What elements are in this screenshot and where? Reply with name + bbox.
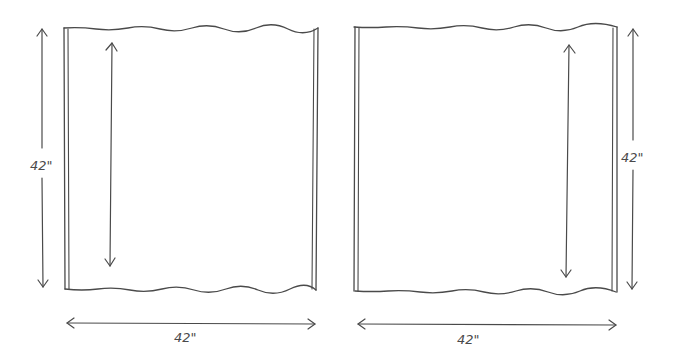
right-panel-right-edge-inner [612,28,613,291]
right-panel: 42" 42" [354,24,644,348]
right-height-label: 42" [621,150,644,165]
left-panel-left-edge-outer [64,28,65,289]
right-panel-left-edge-inner [358,28,359,291]
left-panel: 42" 42" [30,25,318,345]
right-panel-top-edge [354,24,617,31]
left-panel-grain-arrow-icon [105,43,117,266]
left-width-dimension-arrow-icon [67,318,315,329]
left-panel-top-edge [64,25,318,33]
left-height-label: 42" [30,158,53,173]
right-panel-grain-arrow-icon [561,45,575,277]
left-panel-right-edge-outer [316,28,318,290]
left-panel-right-edge-inner [312,29,314,289]
right-panel-bottom-edge [355,288,616,295]
left-width-label: 42" [174,330,197,345]
fabric-panels-diagram: 42" 42" 42" [0,0,678,360]
right-panel-left-edge-outer [354,27,355,291]
right-width-label: 42" [457,332,480,347]
left-panel-left-edge-inner [68,29,69,289]
left-panel-bottom-edge [65,285,316,293]
right-width-dimension-arrow-icon [358,319,616,330]
